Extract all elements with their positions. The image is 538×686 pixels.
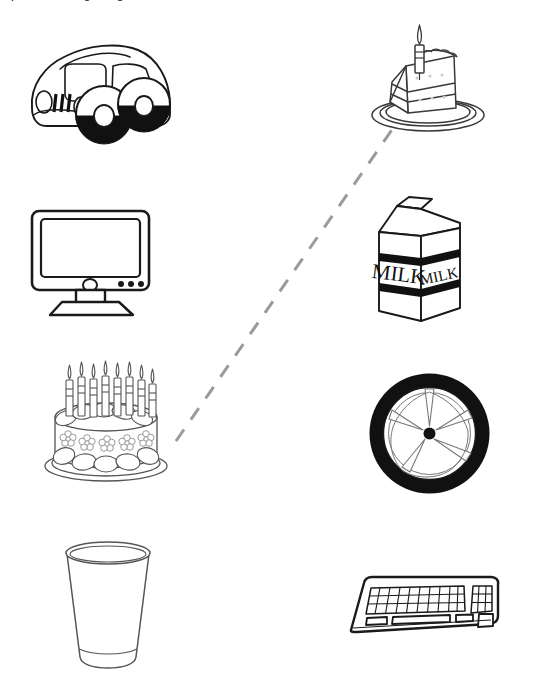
birthday-cake-illustration[interactable] bbox=[36, 362, 176, 487]
cup-illustration[interactable] bbox=[62, 541, 154, 671]
milk-carton-illustration[interactable]: MILK MILK bbox=[366, 190, 466, 332]
clipped-instruction-text: mple: matching things bbox=[0, 0, 538, 4]
wheel-illustration[interactable] bbox=[367, 371, 492, 496]
cake-slice-illustration[interactable] bbox=[362, 20, 494, 138]
television-illustration[interactable] bbox=[28, 207, 153, 319]
keyboard-illustration[interactable] bbox=[331, 570, 503, 650]
worksheet-canvas: mple: matching things bbox=[0, 0, 538, 686]
car-illustration[interactable] bbox=[18, 22, 183, 147]
